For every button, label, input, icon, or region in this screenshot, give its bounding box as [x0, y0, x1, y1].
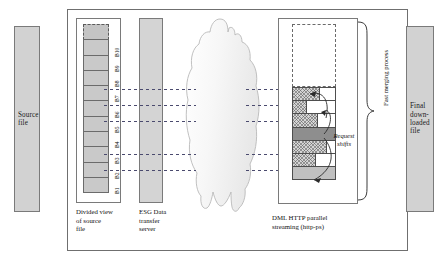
source-block-B5: B5: [83, 116, 109, 132]
source-block-B7: B7: [83, 85, 109, 101]
source-block-B9: B9: [83, 55, 109, 71]
connector-b5-left: [104, 121, 196, 122]
divided-view-panel: B10B9B8B7B6B5B4B3B2B1: [76, 18, 121, 203]
source-block-label-B3: B3: [112, 147, 123, 163]
source-block-label-B1: B1: [112, 178, 123, 194]
source-block-label-B9: B9: [112, 56, 123, 72]
fast-merging-process-label: Fast merging process: [380, 38, 392, 118]
source-block-B10: B10: [83, 39, 109, 55]
source-block-stack: B10B9B8B7B6B5B4B3B2B1: [83, 24, 109, 192]
final-file-label: Final down- loaded file: [407, 102, 433, 136]
esg-data-transfer-server: [139, 18, 163, 203]
source-block-B6: B6: [83, 100, 109, 116]
source-file-label: Source file: [15, 111, 39, 128]
esg-server-caption: ESG Data transfer server: [139, 208, 189, 234]
connector-b7-left: [104, 89, 196, 90]
streaming-pending-region: [292, 24, 336, 87]
source-block-label-B4: B4: [112, 132, 123, 148]
divided-view-caption: Divided view of source file: [76, 208, 134, 234]
source-block-B8: B8: [83, 70, 109, 86]
source-block-label-B6: B6: [112, 101, 123, 117]
connector-b6-left: [104, 105, 196, 106]
merging-brace: [356, 20, 376, 202]
network-cloud-icon: [176, 16, 268, 218]
diagram-canvas: Source file B10B9B8B7B6B5B4B3B2B1: [0, 0, 445, 261]
streaming-caption: DML HTTP parallel streaming (http-ps): [272, 214, 372, 231]
source-block-B4: B4: [83, 131, 109, 147]
source-block-B1: B1: [83, 177, 109, 193]
source-file-block: Source file: [14, 26, 40, 212]
connector-b3-left: [104, 154, 196, 155]
source-block-label-B10: B10: [112, 40, 123, 56]
source-block-pending: [83, 24, 109, 40]
source-block-label-B5: B5: [112, 117, 123, 133]
connector-b2-left: [104, 170, 196, 171]
final-downloaded-file-block: Final down- loaded file: [406, 26, 434, 212]
